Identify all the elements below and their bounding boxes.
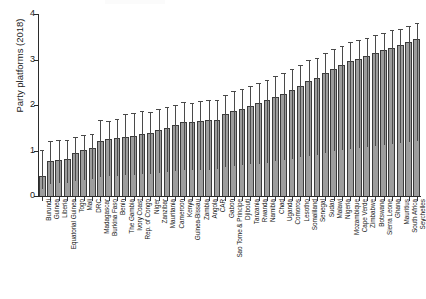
error-bar-stem — [267, 80, 268, 162]
error-bar-stem — [200, 101, 201, 170]
error-bar-stem — [159, 109, 160, 173]
error-bar-cap — [98, 120, 103, 121]
error-bar-cap — [331, 49, 336, 50]
x-tick-label: Ivory Coast — [136, 199, 143, 231]
error-bar-stem — [217, 100, 218, 170]
error-bar-cap — [390, 30, 395, 31]
error-bar-cap — [415, 23, 420, 24]
error-bar-stem — [67, 140, 68, 183]
error-bar-cap — [40, 150, 45, 151]
error-bar-cap — [190, 103, 195, 104]
plot-area: 01234 — [38, 14, 421, 196]
x-tick-label: Cape Verde — [361, 199, 368, 232]
error-bar-cap — [148, 112, 153, 113]
x-tick-label: Zambia — [203, 199, 210, 220]
error-bar-stem — [284, 73, 285, 160]
error-bar-stem — [375, 35, 376, 146]
y-tick-label: 3 — [15, 54, 35, 64]
error-bar-stem — [59, 140, 60, 183]
error-bar-cap — [115, 119, 120, 120]
error-bar-cap — [356, 40, 361, 41]
error-bar-cap — [65, 140, 70, 141]
error-bar-stem — [359, 40, 360, 148]
y-tick-label: 2 — [15, 99, 35, 109]
x-tick-label: Madagascar — [103, 199, 110, 234]
x-tick-label: South Africa — [411, 199, 418, 233]
x-tick-label: Lesotho — [303, 199, 310, 221]
x-tick-label: Gabon — [228, 199, 235, 218]
x-tick-label: Chad — [278, 199, 285, 214]
error-bar-cap — [373, 35, 378, 36]
x-tick-label: Mali — [86, 199, 93, 211]
x-tick-label: Burundi — [45, 199, 52, 221]
error-bar-cap — [273, 76, 278, 77]
error-bar-stem — [125, 114, 126, 175]
error-bar-cap — [315, 58, 320, 59]
error-bar-cap — [365, 38, 370, 39]
y-axis-label: Party platforms (2018) — [14, 0, 25, 141]
x-tick-label: Angola — [211, 199, 218, 219]
error-bar-cap — [81, 135, 86, 136]
x-tick-label: Nigeria — [344, 199, 351, 219]
error-bar-stem — [300, 65, 301, 158]
x-tick-label: CAR — [219, 199, 226, 212]
x-tick-label: Comoros — [294, 199, 301, 225]
error-bar-cap — [298, 65, 303, 66]
error-bar-stem — [50, 141, 51, 183]
x-axis-line — [38, 196, 421, 197]
top-crop-artifact — [105, 0, 165, 4]
x-tick-label: Seychelles — [419, 199, 426, 229]
error-bar-cap — [215, 100, 220, 101]
error-bar-stem — [400, 29, 401, 144]
error-bar-stem — [84, 135, 85, 180]
x-tick-label: DRC — [95, 199, 102, 213]
error-bar-cap — [181, 102, 186, 103]
error-bar-stem — [250, 86, 251, 165]
x-tick-label: Burkina Faso — [111, 199, 118, 236]
error-bar-stem — [275, 76, 276, 161]
error-bar-stem — [142, 111, 143, 174]
error-bar-cap — [231, 91, 236, 92]
error-bar-stem — [75, 137, 76, 181]
error-bar-stem — [175, 105, 176, 171]
error-bar-stem — [234, 91, 235, 166]
x-tick-label: Tanzania — [253, 199, 260, 224]
error-bar-stem — [209, 100, 210, 169]
x-tick-label: Togo — [78, 199, 85, 213]
x-tick-label: Niger — [153, 199, 160, 214]
x-tick-label: Uganda — [286, 199, 293, 221]
error-bar-cap — [406, 26, 411, 27]
error-bar-stem — [317, 58, 318, 155]
error-bar-cap — [281, 73, 286, 74]
x-tick-label: Djibouti — [244, 199, 251, 220]
error-bar-stem — [242, 89, 243, 166]
error-bar-stem — [100, 120, 101, 177]
error-bar-cap — [156, 109, 161, 110]
error-bar-cap — [248, 86, 253, 87]
x-tick-label: Cameroon — [178, 199, 185, 228]
x-tick-label: Senegal — [319, 199, 326, 222]
error-bar-stem — [342, 46, 343, 150]
x-tick-label: Benin — [119, 199, 126, 215]
x-tick-label: Equatorial Guinea — [70, 199, 77, 249]
error-bar-cap — [48, 141, 53, 142]
error-bar-stem — [325, 53, 326, 153]
error-bar-cap — [198, 101, 203, 102]
error-bar-stem — [384, 33, 385, 145]
error-bar-cap — [165, 107, 170, 108]
x-tick-label: Botswana — [378, 199, 385, 227]
x-tick-label: Mauritania — [169, 199, 176, 228]
y-tick-label: 1 — [15, 145, 35, 155]
x-tick-label: Mozambique — [353, 199, 360, 235]
error-bar-cap — [73, 137, 78, 138]
error-bar-stem — [225, 95, 226, 167]
x-tick-label: Ghana — [394, 199, 401, 218]
error-bar-stem — [167, 107, 168, 172]
error-bar-stem — [259, 83, 260, 163]
error-bar-cap — [106, 121, 111, 122]
error-bar-stem — [192, 103, 193, 170]
error-bar-cap — [173, 105, 178, 106]
x-tick-label: Malawi — [336, 199, 343, 219]
error-bar-stem — [134, 113, 135, 175]
